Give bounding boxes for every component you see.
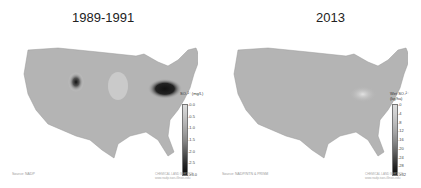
legend-tick-label: -0.5 [188, 114, 195, 119]
legend-tick-label: -28 [398, 163, 404, 168]
map-title: 1989-1991 [72, 10, 134, 25]
us-outline [234, 48, 408, 158]
us-map-sulfate-1989-1991 [18, 44, 198, 162]
legend-tick-label: -1.5 [188, 137, 195, 142]
map-panel-2013: 2013 Wet SO₄²⁻ (kg/ha) -0-4-8-12-16-20-2… [210, 0, 421, 188]
legend-tick-label: -24 [398, 155, 404, 160]
map-panel-1989-1991: 1989-1991 SO₄²⁻ (mg/L) -0.0-0.5-1.0-1.5-… [0, 0, 210, 188]
legend-tick-label: -0 [398, 102, 402, 107]
credit: CHEMICAL LAND SERVICE www.nadp.isws.illi… [365, 172, 403, 180]
legend-tick-label: -1.0 [188, 125, 195, 130]
legend-tick-label: -4 [398, 111, 402, 116]
us-map-sulfate-2013 [228, 44, 408, 162]
legend-tick-label: -8 [398, 120, 402, 125]
legend-tick-label: -0.0 [188, 102, 195, 107]
credit-line-2: www.nadp.isws.illinois.edu [365, 176, 403, 180]
credit-line-2: www.nadp.isws.illinois.edu [155, 176, 193, 180]
source-note: Source: NADP [12, 172, 35, 176]
legend-title: SO₄²⁻ (mg/L) [180, 92, 210, 97]
source-note: Source: NADP/NTN & PRISM [222, 172, 268, 176]
legend-tick-label: -16 [398, 137, 404, 142]
legend: Wet SO₄²⁻ (kg/ha) -0-4-8-12-16-20-24-28-… [388, 92, 420, 178]
map-title: 2013 [316, 10, 345, 25]
credit: CHEMICAL LAND SERVICE www.nadp.isws.illi… [155, 172, 193, 180]
legend-tick-label: -2.0 [188, 149, 195, 154]
legend: SO₄²⁻ (mg/L) -0.0-0.5-1.0-1.5-2.0-2.5-≥3… [178, 92, 210, 178]
legend-tick-label: -12 [398, 128, 404, 133]
legend-tick-label: -2.5 [188, 160, 195, 165]
legend-title: Wet SO₄²⁻ (kg/ha) [390, 92, 420, 101]
legend-tick-label: -20 [398, 146, 404, 151]
